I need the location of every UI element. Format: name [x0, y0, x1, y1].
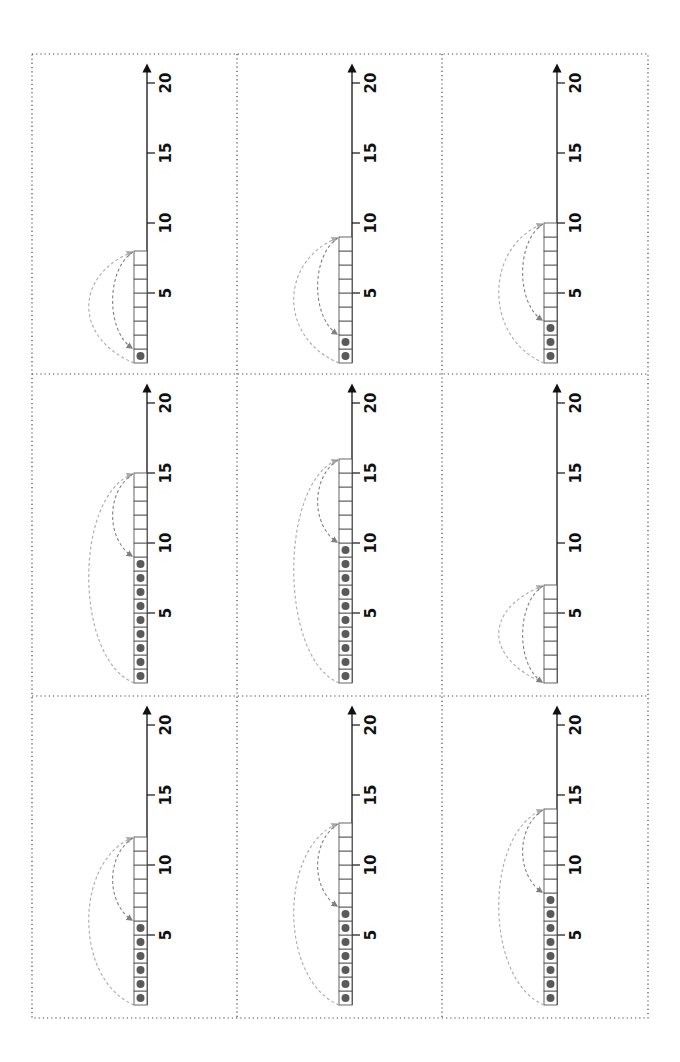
counter-box — [339, 837, 352, 851]
worksheet: 5101520510152051015205101520510152051015… — [0, 0, 680, 1062]
counter-box — [544, 809, 557, 823]
outer-jump-arc — [294, 238, 339, 363]
counter-dot — [342, 546, 350, 554]
counter-dot — [137, 952, 145, 960]
counter-box — [339, 459, 352, 473]
counter-dot — [137, 924, 145, 932]
number-line-cell: 5101520 — [294, 388, 380, 683]
tick-label: 20 — [362, 73, 380, 94]
counter-box — [339, 865, 352, 879]
tick-label: 15 — [567, 785, 585, 806]
cells: 5101520510152051015205101520510152051015… — [89, 68, 585, 1005]
number-line-cell: 5101520 — [89, 710, 175, 1005]
counter-box — [339, 279, 352, 293]
tick-label: 15 — [362, 463, 380, 484]
tick-label: 10 — [157, 533, 175, 554]
counter-box — [544, 599, 557, 613]
counter-box — [134, 893, 147, 907]
counter-box — [134, 487, 147, 501]
counter-box — [339, 487, 352, 501]
tick-label: 15 — [362, 785, 380, 806]
tick-label: 15 — [157, 785, 175, 806]
counter-dot — [547, 938, 555, 946]
counter-dot — [342, 630, 350, 638]
counter-dot — [137, 994, 145, 1002]
counter-box — [134, 515, 147, 529]
counter-dot — [342, 924, 350, 932]
counter-dot — [547, 966, 555, 974]
inner-jump-arc — [318, 238, 338, 334]
tick-label: 20 — [362, 715, 380, 736]
tick-label: 5 — [157, 608, 175, 618]
counter-box — [544, 655, 557, 669]
outer-jump-arc — [89, 252, 134, 363]
counter-dot — [547, 352, 555, 360]
tick-label: 15 — [362, 143, 380, 164]
inner-jump-arc — [318, 460, 338, 542]
counter-dot — [342, 672, 350, 680]
tick-label: 15 — [567, 463, 585, 484]
counter-dot — [137, 980, 145, 988]
inner-jump-arc — [113, 474, 133, 556]
counter-dot — [137, 658, 145, 666]
tick-label: 10 — [157, 213, 175, 234]
outer-jump-arc — [89, 474, 134, 683]
counter-dot — [342, 994, 350, 1002]
counter-dot — [342, 602, 350, 610]
counter-dot — [342, 560, 350, 568]
counter-dot — [547, 338, 555, 346]
counter-box — [339, 893, 352, 907]
tick-label: 10 — [362, 213, 380, 234]
counter-dot — [547, 952, 555, 960]
counter-box — [544, 823, 557, 837]
tick-label: 10 — [567, 213, 585, 234]
counter-dot — [547, 910, 555, 918]
tick-label: 20 — [567, 393, 585, 414]
tick-label: 5 — [567, 608, 585, 618]
counter-dot — [137, 616, 145, 624]
outer-jump-arc — [499, 224, 544, 363]
inner-jump-arc — [523, 586, 543, 682]
counter-dot — [342, 938, 350, 946]
outer-jump-arc — [89, 838, 134, 1005]
number-line-cell: 5101520 — [294, 710, 380, 1005]
counter-dot — [342, 338, 350, 346]
counter-box — [544, 279, 557, 293]
counter-box — [134, 335, 147, 349]
tick-label: 5 — [567, 930, 585, 940]
inner-jump-arc — [113, 838, 133, 920]
tick-label: 20 — [362, 393, 380, 414]
counter-box — [339, 251, 352, 265]
counter-box — [339, 237, 352, 251]
counter-box — [134, 251, 147, 265]
counter-box — [339, 823, 352, 837]
tick-label: 5 — [157, 288, 175, 298]
counter-dot — [342, 980, 350, 988]
counter-box — [134, 865, 147, 879]
counter-dot — [137, 602, 145, 610]
counter-box — [339, 515, 352, 529]
number-line-cell: 5101520 — [499, 68, 585, 363]
outer-jump-arc — [499, 586, 544, 683]
counter-box — [544, 293, 557, 307]
counter-dot — [137, 938, 145, 946]
counter-dot — [342, 616, 350, 624]
tick-label: 5 — [157, 930, 175, 940]
inner-jump-arc — [523, 224, 543, 320]
tick-label: 20 — [567, 73, 585, 94]
counter-box — [544, 613, 557, 627]
number-line-cell: 5101520 — [499, 388, 585, 683]
counter-box — [339, 265, 352, 279]
inner-jump-arc — [523, 810, 543, 892]
counter-box — [339, 851, 352, 865]
tick-label: 10 — [362, 533, 380, 554]
counter-dot — [342, 644, 350, 652]
counter-box — [134, 321, 147, 335]
counter-dot — [547, 994, 555, 1002]
counter-dot — [137, 672, 145, 680]
tick-label: 10 — [567, 855, 585, 876]
counter-dot — [342, 952, 350, 960]
counter-dot — [547, 896, 555, 904]
counter-box — [134, 265, 147, 279]
tick-label: 10 — [157, 855, 175, 876]
